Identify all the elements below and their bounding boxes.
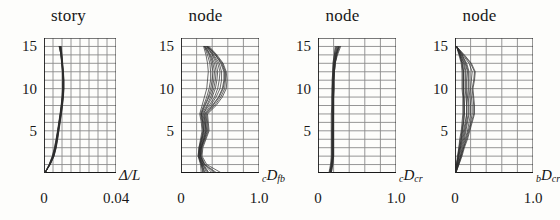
x-tick-label: 1.0 [250, 190, 269, 207]
x-axis-title-4: bDcr [536, 167, 560, 184]
panel-title-1: story [0, 6, 137, 26]
x-tick-label: 0 [314, 190, 322, 207]
y-axis-labels-3: 51015 [274, 38, 314, 173]
plot-area-2 [181, 38, 259, 173]
plot-area-4 [455, 38, 533, 173]
y-tick-label: 5 [304, 123, 312, 138]
y-tick-label: 10 [433, 81, 448, 96]
plot-area-3 [318, 38, 396, 173]
axis-title-main: D [541, 167, 552, 183]
y-tick-label: 10 [22, 81, 37, 96]
chart-panel-1: story5101500.04Δ/L [0, 0, 137, 220]
y-axis-labels-4: 51015 [411, 38, 451, 173]
x-axis-labels-4: 01.0 [411, 190, 548, 212]
x-tick-label: 1.0 [387, 190, 406, 207]
x-tick-label: 0.04 [103, 190, 129, 207]
y-tick-label: 10 [296, 81, 311, 96]
chart-panel-3: node5101501.0cDcr [274, 0, 411, 220]
data-curves-3 [318, 38, 396, 173]
data-curves-2 [181, 38, 259, 173]
y-axis-labels-2: 51015 [137, 38, 177, 173]
x-axis-labels-2: 01.0 [137, 190, 274, 212]
x-tick-label: 0 [177, 190, 185, 207]
panel-title-3: node [274, 6, 411, 26]
chart-panel-2: node5101501.0cDfb [137, 0, 274, 220]
data-curves-1 [44, 38, 116, 173]
x-tick-label: 1.0 [524, 190, 543, 207]
y-tick-label: 5 [441, 123, 449, 138]
y-tick-label: 15 [433, 39, 448, 54]
y-tick-label: 15 [159, 39, 174, 54]
y-tick-label: 5 [30, 123, 38, 138]
y-tick-label: 15 [22, 39, 37, 54]
x-tick-label: 0 [40, 190, 48, 207]
y-tick-label: 15 [296, 39, 311, 54]
y-tick-label: 10 [159, 81, 174, 96]
x-axis-labels-3: 01.0 [274, 190, 411, 212]
panel-title-2: node [137, 6, 274, 26]
data-curves-4 [455, 38, 533, 173]
plot-area-1 [44, 38, 116, 173]
y-axis-labels-1: 51015 [0, 38, 40, 173]
panel-title-4: node [411, 6, 548, 26]
chart-panel-4: node5101501.0bDcr [411, 0, 548, 220]
y-tick-label: 5 [167, 123, 175, 138]
x-tick-label: 0 [451, 190, 459, 207]
x-axis-labels-1: 00.04 [0, 190, 137, 212]
axis-title-subscript: cr [552, 173, 560, 184]
